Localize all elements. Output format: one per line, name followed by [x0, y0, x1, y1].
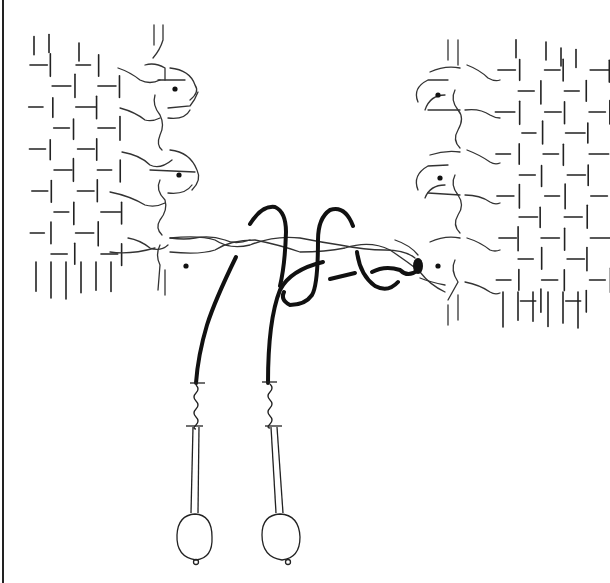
dot-marker: [172, 86, 177, 91]
dot-marker: [176, 172, 181, 177]
right-woven-panel: [495, 40, 610, 328]
weaving-diagram: [0, 0, 610, 583]
twisted-weft: [170, 237, 445, 292]
bobbin-1: [177, 383, 212, 565]
bobbin-2: [262, 382, 300, 565]
dot-marker: [435, 92, 440, 97]
knot-blob: [413, 258, 423, 274]
left-woven-panel: [29, 35, 122, 299]
knot-threads: [196, 207, 423, 383]
figure-description: Line drawing of two woven fabric panels …: [0, 0, 1, 1]
left-selvedge-chain: [110, 25, 250, 295]
dot-marker: [435, 263, 440, 268]
dot-marker: [437, 175, 442, 180]
dot-marker: [183, 263, 188, 268]
